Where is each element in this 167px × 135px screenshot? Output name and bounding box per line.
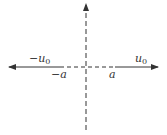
label-pos-u0: u0 [135,52,147,66]
label-neg-a: −a [51,68,67,81]
label-neg-u0: −u0 [29,52,50,66]
axes-diagram: −u0 u0 −a a [0,0,167,135]
label-pos-a: a [109,68,116,81]
